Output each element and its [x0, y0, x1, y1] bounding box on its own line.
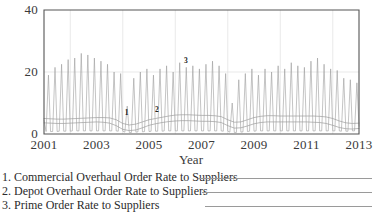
- x-axis-tick: 2001: [22, 138, 66, 151]
- x-axis-tick: 2007: [180, 138, 224, 151]
- plot-area: 123 02040 2001200320052007200920112013: [0, 0, 382, 148]
- legend-label-2: 2. Depot Overhaul Order Rate to Supplier…: [2, 184, 208, 198]
- y-axis-tick: 20: [10, 65, 38, 78]
- legend-row: 2. Depot Overhaul Order Rate to Supplier…: [2, 184, 380, 198]
- legend-line-1: [198, 178, 372, 179]
- x-axis-title: Year: [0, 152, 382, 168]
- legend-line-3: [205, 206, 372, 207]
- series-lines: [44, 53, 359, 132]
- x-axis-tick: 2013: [337, 138, 381, 151]
- legend-label-1: 1. Commercial Overhaul Order Rate to Sup…: [2, 170, 238, 184]
- x-axis-tick: 2009: [232, 138, 276, 151]
- legend-row: 1. Commercial Overhaul Order Rate to Sup…: [2, 170, 380, 184]
- plot-canvas: 123: [0, 0, 382, 148]
- svg-text:1: 1: [125, 108, 129, 117]
- svg-text:2: 2: [155, 105, 159, 114]
- x-axis-tick: 2003: [75, 138, 119, 151]
- svg-text:3: 3: [184, 56, 188, 65]
- x-axis-tick: 2005: [127, 138, 171, 151]
- x-axis-tick: 2011: [285, 138, 329, 151]
- chart-legend: 1. Commercial Overhaul Order Rate to Sup…: [2, 170, 380, 212]
- legend-row: 3. Prime Order Rate to Suppliers: [2, 198, 380, 212]
- chart-figure: 123 02040 2001200320052007200920112013 Y…: [0, 0, 382, 215]
- legend-line-2: [202, 192, 372, 193]
- legend-label-3: 3. Prime Order Rate to Suppliers: [2, 198, 159, 212]
- y-axis-tick: 40: [10, 3, 38, 16]
